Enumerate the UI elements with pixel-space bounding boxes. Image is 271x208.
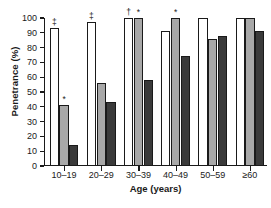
y-axis-tick-label: 0 xyxy=(32,162,37,171)
bar[interactable] xyxy=(124,18,133,166)
y-axis-tick-label: 100 xyxy=(22,14,37,23)
y-axis-tick-label: 60 xyxy=(27,73,37,82)
bar-groups: ‡*‡†** xyxy=(44,18,267,166)
bar[interactable] xyxy=(208,39,217,166)
bar[interactable] xyxy=(198,18,207,166)
significance-marker: ‡ xyxy=(84,12,99,21)
y-axis-tick-label: 30 xyxy=(27,117,37,126)
significance-marker: * xyxy=(168,8,183,17)
bar-group: ‡ xyxy=(87,18,116,166)
x-axis-tick-label: 30–39 xyxy=(120,170,157,180)
significance-marker: ‡ xyxy=(47,18,62,27)
bar[interactable] xyxy=(144,80,153,166)
x-axis-tick-label: ≥60 xyxy=(231,170,268,180)
x-axis-tick-label: 50–59 xyxy=(194,170,231,180)
bar[interactable] xyxy=(69,145,78,166)
y-axis-tick-label: 50 xyxy=(27,88,37,97)
bar[interactable] xyxy=(59,105,68,166)
significance-marker: * xyxy=(131,8,146,17)
bar-group: †* xyxy=(124,18,153,166)
significance-marker: * xyxy=(56,95,71,104)
bar[interactable] xyxy=(218,36,227,166)
y-axis-tick-label: 90 xyxy=(27,28,37,37)
x-axis-tick-label: 20–29 xyxy=(83,170,120,180)
bar[interactable] xyxy=(245,18,254,166)
y-axis-tick-label: 10 xyxy=(27,147,37,156)
y-axis-tick-label: 70 xyxy=(27,58,37,67)
bar[interactable] xyxy=(181,56,190,166)
y-axis-tick-label: 20 xyxy=(27,132,37,141)
bar[interactable] xyxy=(97,83,106,166)
x-axis-tick-labels: 10–1920–2930–3940–4950–59≥60 xyxy=(44,170,267,182)
chart-title xyxy=(0,0,271,4)
bar[interactable] xyxy=(134,18,143,166)
bar[interactable] xyxy=(106,102,115,166)
bar[interactable] xyxy=(255,31,264,166)
y-axis-tick-label: 80 xyxy=(27,43,37,52)
bar-chart-figure: Penetrance (%) 0102030405060708090100 ‡*… xyxy=(0,0,271,208)
x-axis-label: Age (years) xyxy=(44,183,267,194)
bar-group: ‡* xyxy=(50,18,79,166)
bar[interactable] xyxy=(161,31,170,166)
plot-area: 0102030405060708090100 ‡*‡†** xyxy=(44,18,267,166)
bar[interactable] xyxy=(236,18,245,166)
x-axis-tick-label: 40–49 xyxy=(157,170,194,180)
y-axis-label: Penetrance (%) xyxy=(9,22,20,142)
x-axis-tick-label: 10–19 xyxy=(46,170,83,180)
y-axis-tick-label: 40 xyxy=(27,102,37,111)
bar-group: * xyxy=(161,18,190,166)
bar[interactable] xyxy=(171,18,180,166)
bar-group xyxy=(198,18,227,166)
bar[interactable] xyxy=(87,22,96,166)
bar-group xyxy=(236,18,265,166)
